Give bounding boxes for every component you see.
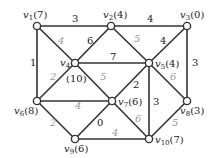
- vertex-v10: [145, 135, 152, 142]
- vertex-label-v10: v10(7): [155, 134, 184, 147]
- vertex-label-v4: v4: [60, 57, 71, 70]
- edge-weight-label: 5: [172, 117, 178, 128]
- edge-weight-label: 5: [134, 33, 140, 44]
- vertex-label-v5: v5(4): [155, 58, 179, 71]
- edge-weight-label: 4: [111, 127, 118, 138]
- edge-weight-label: 3: [72, 13, 78, 24]
- edge-weight-labels: 34146543725236420645: [30, 13, 198, 138]
- edge-weight-label: 2: [49, 71, 56, 82]
- edge-weight-label: 1: [30, 57, 36, 68]
- edge-weight-label: 4: [57, 35, 64, 46]
- vertex-label-v8: v8(3): [180, 105, 204, 118]
- edge-weight-label: 7: [110, 51, 116, 62]
- vertices: [33, 22, 190, 142]
- vertex-v1: [33, 22, 40, 29]
- edge-weight-label: 0: [97, 117, 103, 128]
- edge-weight-label: 2: [49, 117, 56, 128]
- vertex-v4: [71, 59, 78, 66]
- vertex-label-v1: v1(7): [23, 9, 47, 22]
- vertex-v3: [183, 22, 190, 29]
- edge-weight-label: 4: [160, 35, 166, 46]
- edge-weight-label: 3: [153, 96, 159, 107]
- vertex-value-v4: (10): [66, 73, 87, 84]
- vertex-label-v2: v2(4): [103, 9, 127, 22]
- edge-v2-v5: [111, 26, 149, 63]
- vertex-v9: [71, 135, 78, 142]
- edge-weight-label: 6: [135, 113, 142, 124]
- edge-weight-label: 3: [192, 57, 198, 68]
- vertex-v2: [107, 22, 114, 29]
- vertex-label-v6: v6(8): [14, 105, 38, 118]
- vertex-v7: [108, 97, 115, 104]
- edge-weight-label: 4: [147, 13, 153, 24]
- weighted-graph: 34146543725236420645 v1(7)v2(4)v3(0)v4(1…: [0, 0, 216, 158]
- vertex-label-v7: v7(6): [118, 96, 142, 109]
- edge-weight-label: 4: [74, 100, 81, 111]
- edge-v1-v4: [37, 26, 75, 63]
- edge-weight-label: 2: [133, 79, 139, 90]
- edge-weight-label: 6: [87, 35, 93, 46]
- vertex-v5: [145, 59, 152, 66]
- edge-weight-label: 6: [170, 71, 177, 82]
- vertex-v6: [33, 97, 40, 104]
- vertex-v8: [183, 97, 190, 104]
- edge-weight-label: 5: [100, 71, 106, 82]
- vertex-label-v3: v3(0): [180, 9, 204, 22]
- vertex-label-v9: v9(6): [64, 143, 88, 156]
